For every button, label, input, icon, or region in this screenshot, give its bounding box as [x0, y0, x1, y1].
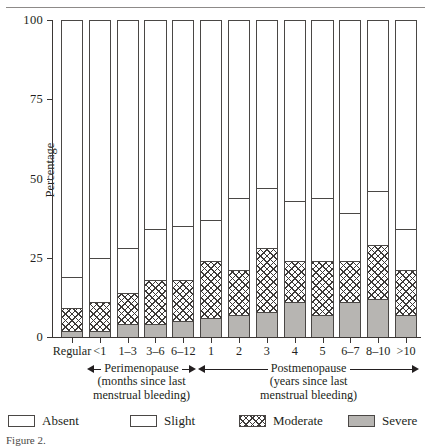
x-tick-label: 4: [292, 344, 298, 359]
bar-segment-severe: [172, 321, 194, 337]
y-tick-label: 25: [30, 250, 43, 265]
bar-segment-severe: [339, 302, 361, 337]
bar-segment-absent: [117, 20, 139, 248]
legend-item-moderate[interactable]: Moderate: [239, 413, 323, 429]
bar-segment-moderate: [256, 248, 278, 311]
x-tick-mark: [267, 338, 268, 343]
y-tick-mark: [47, 99, 52, 100]
bar-segment-absent: [339, 20, 361, 213]
x-tick-label: 1: [208, 344, 214, 359]
x-tick-label: 8–10: [366, 344, 390, 359]
bar-segment-severe: [89, 331, 111, 337]
arrow-right-icon: [189, 365, 196, 373]
bar-column: [144, 20, 166, 337]
bar-segment-severe: [395, 315, 417, 337]
y-tick-label: 0: [36, 330, 43, 345]
legend-item-severe[interactable]: Severe: [348, 413, 417, 429]
bar-segment-slight: [339, 213, 361, 261]
x-axis-line: [52, 337, 421, 338]
x-tick-label: 3: [264, 344, 270, 359]
y-axis-title: Percentage: [43, 143, 58, 198]
legend-swatch-severe: [348, 415, 375, 427]
bar-column: [256, 20, 278, 337]
bar-column: [117, 20, 139, 337]
bar-segment-moderate: [61, 308, 83, 330]
bar-segment-absent: [144, 20, 166, 229]
bar-segment-absent: [228, 20, 250, 198]
perimenopause-bracket: Perimenopause: [87, 362, 196, 375]
bar-segment-slight: [228, 198, 250, 271]
x-tick-label: >10: [397, 344, 416, 359]
x-tick-mark: [155, 338, 156, 343]
x-tick-mark: [183, 338, 184, 343]
bar-segment-moderate: [339, 261, 361, 302]
bar-segment-absent: [367, 20, 389, 191]
bar-segment-slight: [89, 258, 111, 302]
x-tick-label: <1: [93, 344, 106, 359]
bar-column: [339, 20, 361, 337]
bar-segment-absent: [61, 20, 83, 277]
bar-segment-absent: [200, 20, 222, 220]
legend-item-slight[interactable]: Slight: [130, 413, 195, 429]
bar-segment-slight: [395, 229, 417, 270]
legend-label: Severe: [382, 413, 417, 429]
bar-segment-absent: [89, 20, 111, 258]
x-tick-mark: [128, 338, 129, 343]
y-tick-mark: [47, 20, 52, 21]
bar-column: [228, 20, 250, 337]
legend-swatch-slight: [130, 415, 157, 427]
postmenopause-label: Postmenopause: [268, 361, 350, 376]
postmenopause-sublabel-1: (years since last: [198, 375, 419, 389]
bar-segment-severe: [200, 318, 222, 337]
bar-segment-severe: [367, 299, 389, 337]
arrow-left-icon: [198, 365, 205, 373]
legend-label: Absent: [42, 413, 79, 429]
annotation-perimenopause: Perimenopause (months since last menstru…: [87, 362, 196, 402]
bar-segment-moderate: [172, 280, 194, 321]
bar-column: [284, 20, 306, 337]
bar-segment-moderate: [144, 280, 166, 324]
x-tick-label: 1–3: [118, 344, 136, 359]
bar-segment-slight: [367, 191, 389, 245]
bar-segment-slight: [256, 188, 278, 248]
y-tick-mark: [47, 179, 52, 180]
perimenopause-sublabel-2: menstrual bleeding): [87, 389, 196, 403]
postmenopause-bracket: Postmenopause: [198, 362, 419, 375]
bar-segment-slight: [61, 277, 83, 309]
chart-legend: AbsentSlightModerateSevere: [8, 411, 426, 431]
x-tick-mark: [350, 338, 351, 343]
bar-segment-moderate: [395, 270, 417, 314]
bar-segment-severe: [144, 324, 166, 337]
arrow-left-icon: [87, 365, 94, 373]
bar-segment-moderate: [228, 270, 250, 314]
bar-segment-slight: [117, 248, 139, 292]
bar-segment-slight: [284, 201, 306, 261]
bar-segment-absent: [284, 20, 306, 201]
x-tick-mark: [406, 338, 407, 343]
y-tick-label: 75: [30, 92, 43, 107]
y-tick-label: 50: [30, 171, 43, 186]
figure-caption: Figure 2.: [6, 434, 426, 446]
legend-label: Moderate: [273, 413, 323, 429]
bar-segment-moderate: [89, 302, 111, 331]
y-tick-mark: [47, 258, 52, 259]
annotation-postmenopause: Postmenopause (years since last menstrua…: [198, 362, 419, 402]
x-tick-label: Regular: [53, 344, 92, 359]
legend-item-absent[interactable]: Absent: [8, 413, 79, 429]
x-tick-mark: [211, 338, 212, 343]
bar-segment-severe: [256, 312, 278, 337]
x-tick-mark: [295, 338, 296, 343]
bar-segment-moderate: [117, 293, 139, 325]
bar-segment-severe: [284, 302, 306, 337]
x-tick-label: 3–6: [146, 344, 164, 359]
bar-column: [200, 20, 222, 337]
x-tick-label: 6–12: [171, 344, 195, 359]
legend-label: Slight: [164, 413, 195, 429]
bar-segment-absent: [395, 20, 417, 229]
legend-swatch-moderate: [239, 415, 266, 427]
bar-column: [172, 20, 194, 337]
x-tick-mark: [239, 338, 240, 343]
bar-segment-moderate: [284, 261, 306, 302]
bar-segment-absent: [311, 20, 333, 198]
